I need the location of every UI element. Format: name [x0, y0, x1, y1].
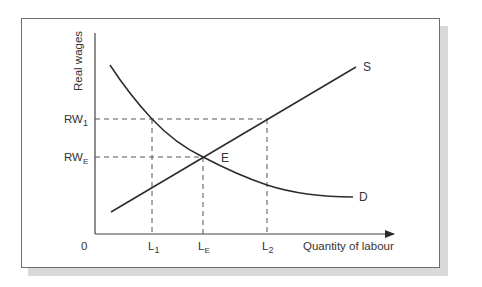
supply-label: S — [363, 60, 371, 74]
svg-text:L2: L2 — [262, 240, 273, 255]
labour-market-diagram: S D E Real wages RW1 RWE 0 L1 LE L2 Quan… — [0, 0, 482, 287]
y-tick-rw1: RW1 — [64, 113, 88, 128]
x-tick-l1: L1 — [148, 240, 159, 255]
svg-text:RW1: RW1 — [64, 113, 88, 128]
x-tick-l2: L2 — [262, 240, 273, 255]
origin-label: 0 — [81, 240, 87, 252]
x-tick-le: LE — [198, 240, 210, 255]
x-axis-title: Quantity of labour — [303, 240, 394, 252]
svg-text:LE: LE — [198, 240, 210, 255]
equilibrium-label: E — [221, 151, 229, 165]
demand-label: D — [359, 190, 368, 204]
svg-text:RWE: RWE — [64, 151, 88, 166]
dashed-guides — [95, 119, 267, 234]
y-tick-rwe: RWE — [64, 151, 88, 166]
y-axis-title: Real wages — [72, 31, 84, 91]
demand-curve — [110, 65, 353, 197]
supply-line — [111, 67, 356, 212]
svg-text:L1: L1 — [148, 240, 159, 255]
